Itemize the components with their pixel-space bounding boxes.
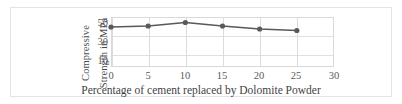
x-axis-tick-15: 15: [210, 70, 234, 81]
y-axis-tick-10: 10: [82, 55, 108, 66]
x-axis-tick-10: 10: [173, 70, 197, 81]
x-axis-tick-30: 30: [322, 70, 346, 81]
data-series-compressive-strength: [111, 17, 334, 67]
data-point: [257, 26, 262, 31]
y-axis-tick-50: 50: [82, 17, 108, 28]
data-point: [146, 23, 151, 28]
chart-screenshot: Compressive Strength in MPa 50 30 10 0 5…: [0, 0, 402, 104]
series-line: [111, 23, 297, 31]
x-axis-tick-25: 25: [284, 70, 308, 81]
x-axis-title: Percentage of cement replaced by Dolomit…: [20, 84, 382, 96]
data-point: [294, 28, 299, 33]
x-axis-tick-20: 20: [247, 70, 271, 81]
data-point: [183, 20, 188, 25]
y-axis-tick-30: 30: [82, 36, 108, 47]
x-axis-tick-5: 5: [136, 70, 160, 81]
data-point: [220, 23, 225, 28]
data-point: [108, 24, 113, 29]
x-axis-tick-0: 0: [99, 70, 123, 81]
